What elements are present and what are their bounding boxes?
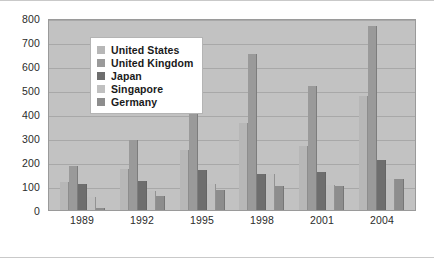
bar-japan-2001	[317, 172, 326, 210]
legend-swatch-icon	[97, 72, 105, 80]
legend-label: Germany	[111, 96, 157, 108]
legend-swatch-icon	[97, 59, 105, 67]
bar-japan-2004	[377, 160, 386, 210]
bar-singapore-2001	[326, 185, 335, 210]
legend-label: United Kingdom	[111, 57, 193, 69]
y-axis: 0100200300400500600700800	[0, 19, 46, 211]
y-tick-label: 200	[22, 157, 40, 169]
legend-item-united-states: United States	[97, 43, 193, 56]
x-tick-label: 2001	[297, 214, 347, 236]
y-tick-label: 400	[22, 109, 40, 121]
bar-group-2001	[299, 20, 344, 210]
y-tick-label: 0	[34, 205, 40, 217]
bar-united-states-1995	[180, 150, 189, 210]
bar-germany-2001	[335, 186, 344, 210]
y-tick-label: 100	[22, 181, 40, 193]
bar-united-kingdom-1989	[69, 166, 78, 210]
legend-label: Japan	[111, 70, 142, 82]
x-tick-label: 2004	[357, 214, 407, 236]
legend-swatch-icon	[97, 98, 105, 106]
legend-item-germany: Germany	[97, 95, 193, 108]
bar-group-2004	[359, 20, 404, 210]
legend-item-singapore: Singapore	[97, 82, 193, 95]
bar-united-states-2001	[299, 146, 308, 210]
bar-united-states-1989	[60, 182, 69, 210]
y-tick-label: 500	[22, 85, 40, 97]
bar-united-kingdom-1992	[129, 140, 138, 210]
bar-japan-1992	[138, 181, 147, 210]
bar-germany-2004	[395, 179, 404, 210]
bar-united-states-2004	[359, 96, 368, 210]
bar-united-kingdom-1998	[248, 54, 257, 210]
chart-figure: 0100200300400500600700800 19891992199519…	[0, 0, 434, 258]
chart-legend: United StatesUnited KingdomJapanSingapor…	[90, 37, 203, 114]
bar-germany-1998	[275, 186, 284, 210]
bar-singapore-1995	[207, 184, 216, 210]
bar-germany-1989	[96, 208, 105, 210]
bar-singapore-1992	[147, 191, 156, 210]
x-axis: 198919921995199820012004	[48, 214, 416, 236]
legend-swatch-icon	[97, 85, 105, 93]
bar-germany-1992	[156, 196, 165, 210]
legend-item-united-kingdom: United Kingdom	[97, 56, 193, 69]
x-tick-label: 1989	[57, 214, 107, 236]
legend-label: Singapore	[111, 83, 163, 95]
y-tick-label: 300	[22, 133, 40, 145]
bar-united-kingdom-2004	[368, 26, 377, 210]
y-tick-label: 600	[22, 61, 40, 73]
bar-group-1998	[239, 20, 284, 210]
bar-singapore-1998	[266, 174, 275, 210]
legend-label: United States	[111, 44, 179, 56]
bar-singapore-2004	[386, 179, 395, 210]
bar-united-states-1998	[239, 123, 248, 210]
bar-japan-1995	[198, 170, 207, 210]
bar-united-kingdom-2001	[308, 86, 317, 210]
legend-swatch-icon	[97, 46, 105, 54]
y-tick-label: 800	[22, 13, 40, 25]
x-tick-label: 1998	[237, 214, 287, 236]
bar-japan-1998	[257, 174, 266, 210]
legend-item-japan: Japan	[97, 69, 193, 82]
bar-japan-1989	[78, 184, 87, 210]
x-tick-label: 1992	[117, 214, 167, 236]
x-tick-label: 1995	[177, 214, 227, 236]
bar-singapore-1989	[87, 197, 96, 210]
bar-germany-1995	[216, 190, 225, 210]
y-tick-label: 700	[22, 37, 40, 49]
bar-united-states-1992	[120, 169, 129, 210]
